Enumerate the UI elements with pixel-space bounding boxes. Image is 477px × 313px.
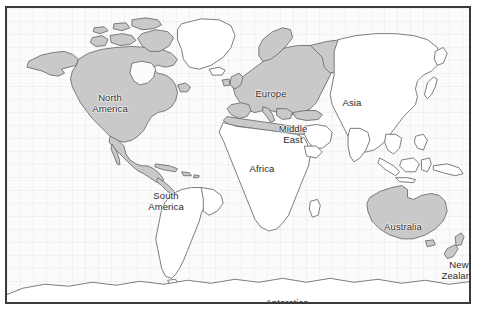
landmass-antarctica bbox=[7, 278, 469, 302]
landmass-iberia bbox=[227, 103, 251, 119]
landmass-victoria-island bbox=[110, 34, 136, 46]
landmass-north-america-mainland bbox=[70, 46, 177, 142]
landmass-cuba bbox=[155, 164, 178, 172]
world-map-svg bbox=[7, 8, 469, 302]
landmass-india bbox=[348, 128, 370, 162]
map-frame-border: North America South America Europe Afric… bbox=[5, 6, 471, 304]
landmass-java bbox=[396, 178, 416, 183]
landmass-iceland bbox=[209, 67, 225, 75]
landmass-anatolia bbox=[293, 111, 323, 121]
landmass-new-guinea bbox=[433, 164, 463, 176]
landmass-greenland bbox=[178, 19, 236, 69]
landmass-sumatra bbox=[378, 158, 400, 176]
landmass-arctic-islet-a bbox=[113, 23, 130, 31]
landmass-new-zealand-south bbox=[444, 245, 458, 259]
landmass-borneo bbox=[400, 158, 420, 172]
landmass-africa-mainland bbox=[219, 122, 310, 231]
landmass-puerto-rico bbox=[193, 175, 199, 178]
landmass-alaska bbox=[27, 51, 79, 76]
landmass-australia bbox=[367, 186, 447, 239]
landmass-hispaniola bbox=[181, 172, 191, 176]
landmass-central-america bbox=[157, 178, 176, 195]
landmass-sulawesi bbox=[421, 158, 431, 172]
landmass-banks-island bbox=[90, 36, 108, 47]
landmass-newfoundland bbox=[178, 83, 191, 92]
landmass-madagascar bbox=[309, 199, 320, 217]
landmass-philippines bbox=[414, 134, 427, 150]
landmass-arctic-islet-b bbox=[93, 27, 108, 34]
landmass-brazil-bulge bbox=[201, 188, 223, 216]
landmass-new-zealand-north bbox=[455, 233, 464, 246]
region-antarctica[interactable] bbox=[7, 278, 469, 302]
landmass-tasmania bbox=[425, 240, 435, 247]
region-australia[interactable] bbox=[367, 186, 464, 259]
region-greenland[interactable] bbox=[178, 19, 236, 75]
landmass-japan bbox=[424, 77, 437, 99]
landmass-ireland bbox=[222, 79, 230, 86]
region-south-america[interactable] bbox=[156, 188, 223, 285]
landmass-indochina bbox=[385, 134, 402, 154]
landmass-arabia bbox=[304, 124, 332, 148]
world-map-figure: North America South America Europe Afric… bbox=[0, 0, 477, 313]
region-north-america[interactable] bbox=[27, 18, 200, 195]
landmass-ellesmere-island bbox=[132, 18, 162, 30]
